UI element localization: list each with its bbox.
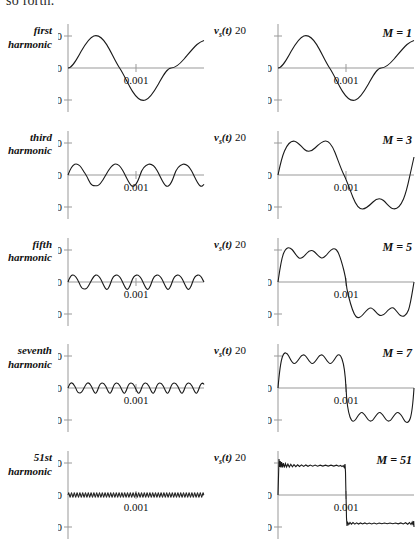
ytick-mid: 0 xyxy=(58,62,63,74)
ytick-bot: -20 xyxy=(268,201,272,213)
ytick-mid: 0 xyxy=(268,276,273,288)
harmonic-label-3: fifth harmonic xyxy=(0,238,52,265)
page-text-fragment: so forth. xyxy=(6,0,54,9)
partial-sum-plot-5: 0 -20 0.001 xyxy=(268,447,416,543)
y-axis-label-1: vs(t) 20 xyxy=(214,24,246,39)
figure-row-5: 51st harmonic 20 0 -20 xyxy=(0,441,420,548)
harmonic-label-line1: first xyxy=(34,24,52,36)
axes xyxy=(274,451,414,539)
partial-sum-panel-5: vs(t) 20 M = 51 0 -20 xyxy=(210,441,420,548)
harmonic-label-5: 51st harmonic xyxy=(0,451,52,478)
ytick-top: 20 xyxy=(58,137,63,149)
partial-sum-plot-3: 0 -20 0.001 xyxy=(268,234,416,330)
ytick-mid: 0 xyxy=(268,169,273,181)
ytick-bot: -20 xyxy=(268,414,272,426)
ytick-bot: -20 xyxy=(58,414,62,426)
vs-value: 20 xyxy=(235,344,246,356)
axes xyxy=(64,238,204,326)
harmonic-label-line2: harmonic xyxy=(0,358,52,372)
harmonic-label-line1: third xyxy=(30,131,52,143)
xtick-label: 0.001 xyxy=(124,394,149,406)
ytick-bot: -20 xyxy=(58,94,62,106)
y-axis-label-5: vs(t) 20 xyxy=(214,451,246,466)
figure-row-4: seventh harmonic 20 0 -20 xyxy=(0,334,420,441)
ytick-mid: 0 xyxy=(58,276,63,288)
ytick-mid: 0 xyxy=(58,382,63,394)
xtick-label: 0.001 xyxy=(124,74,149,86)
axes xyxy=(64,344,204,432)
vs-value: 20 xyxy=(235,451,246,463)
figure-row-3: fifth harmonic 20 0 -20 xyxy=(0,228,420,335)
xtick-label: 0.001 xyxy=(124,501,149,513)
figure-row-2: third harmonic 20 0 -20 xyxy=(0,121,420,228)
partial-sum-panel-2: vs(t) 20 M = 3 0 -20 xyxy=(210,121,420,228)
y-axis-label-4: vs(t) 20 xyxy=(214,344,246,359)
axes xyxy=(64,131,204,219)
vs-arg: (t) xyxy=(222,344,232,356)
vs-arg: (t) xyxy=(222,24,232,36)
vs-arg: (t) xyxy=(222,131,232,143)
ytick-bot: -20 xyxy=(58,308,62,320)
axes xyxy=(274,24,414,112)
ytick-bot: -20 xyxy=(58,521,62,533)
harmonic-label-2: third harmonic xyxy=(0,131,52,158)
harmonic-label-line1: seventh xyxy=(18,344,52,356)
vs-value: 20 xyxy=(235,238,246,250)
harmonic-label-line2: harmonic xyxy=(0,465,52,479)
harmonic-label-line2: harmonic xyxy=(0,38,52,52)
harmonic-panel-5: 51st harmonic 20 0 -20 xyxy=(0,441,210,548)
ytick-mid: 0 xyxy=(268,62,273,74)
ytick-top: 20 xyxy=(58,244,63,256)
harmonic-plot-5: 20 0 -20 0.001 xyxy=(58,447,206,543)
vs-arg: (t) xyxy=(222,451,232,463)
xtick-label: 0.001 xyxy=(334,74,359,86)
harmonic-panel-3: fifth harmonic 20 0 -20 xyxy=(0,228,210,335)
partial-sum-curve-5 xyxy=(278,247,414,317)
axes xyxy=(64,24,204,112)
axes xyxy=(274,344,414,432)
ytick-mid: 0 xyxy=(268,489,273,501)
harmonic-panel-4: seventh harmonic 20 0 -20 xyxy=(0,334,210,441)
harmonic-plot-3: 20 0 -20 0.001 xyxy=(58,234,206,330)
xtick-label: 0.001 xyxy=(334,288,359,300)
harmonic-label-line2: harmonic xyxy=(0,251,52,265)
harmonic-plot-4: 20 0 -20 0.001 xyxy=(58,340,206,436)
harmonic-panel-1: first harmonic 20 0 -20 xyxy=(0,14,210,121)
ytick-top: 20 xyxy=(58,30,63,42)
figure-grid: first harmonic 20 0 -20 xyxy=(0,14,420,548)
y-axis-label-2: vs(t) 20 xyxy=(214,131,246,146)
vs-arg: (t) xyxy=(222,238,232,250)
ytick-top: 20 xyxy=(58,350,63,362)
ytick-bot: -20 xyxy=(268,308,272,320)
xtick-label: 0.001 xyxy=(334,181,359,193)
ytick-mid: 0 xyxy=(58,169,63,181)
vs-value: 20 xyxy=(235,131,246,143)
harmonic-panel-2: third harmonic 20 0 -20 xyxy=(0,121,210,228)
ytick-bot: -20 xyxy=(268,521,272,533)
axes xyxy=(274,238,414,326)
harmonic-label-4: seventh harmonic xyxy=(0,344,52,371)
partial-sum-plot-2: 0 -20 0.001 xyxy=(268,127,416,223)
partial-sum-panel-1: vs(t) 20 M = 1 0 -20 xyxy=(210,14,420,121)
vs-value: 20 xyxy=(235,24,246,36)
harmonic-label-1: first harmonic xyxy=(0,24,52,51)
harmonic-label-line1: 51st xyxy=(34,451,52,463)
figure-row-1: first harmonic 20 0 -20 xyxy=(0,14,420,121)
partial-sum-plot-1: 0 -20 0.001 xyxy=(268,20,416,116)
harmonic-label-line2: harmonic xyxy=(0,144,52,158)
ytick-mid: 0 xyxy=(268,382,273,394)
harmonic-label-line1: fifth xyxy=(32,238,52,250)
partial-sum-curve-51 xyxy=(278,459,414,527)
partial-sum-plot-4: 0 -20 0.001 xyxy=(268,340,416,436)
partial-sum-panel-4: vs(t) 20 M = 7 0 -20 xyxy=(210,334,420,441)
ytick-mid: 0 xyxy=(58,489,63,501)
harmonic-plot-1: 20 0 -20 0.001 xyxy=(58,20,206,116)
ytick-bot: -20 xyxy=(268,94,272,106)
xtick-label: 0.001 xyxy=(124,181,149,193)
partial-sum-panel-3: vs(t) 20 M = 5 0 -20 xyxy=(210,228,420,335)
y-axis-label-3: vs(t) 20 xyxy=(214,238,246,253)
harmonic-plot-2: 20 0 -20 0.001 xyxy=(58,127,206,223)
ytick-top: 20 xyxy=(58,457,63,469)
ytick-bot: -20 xyxy=(58,201,62,213)
